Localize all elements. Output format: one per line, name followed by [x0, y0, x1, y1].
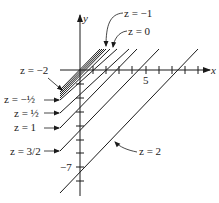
- label-z-neg1: z = −1: [124, 7, 152, 19]
- line-z-1-5: [60, 49, 159, 151]
- line-z-neg1: [60, 49, 104, 94]
- curve-labels: z = −1 z = 0 z = −2 z = −½ z = ½ z = 1 z…: [4, 7, 161, 157]
- label-z-1: z = 1: [14, 121, 36, 133]
- x-axis-label: x: [210, 64, 216, 76]
- y-tick-label-minus7: −7: [60, 161, 72, 173]
- level-lines: [60, 49, 198, 193]
- arrow-z-2: [115, 142, 137, 152]
- line-z-neg0-5: [60, 49, 117, 100]
- label-z-half: z = ½: [14, 107, 39, 119]
- x-tick-label-5: 5: [143, 74, 149, 86]
- label-z-neg2: z = −2: [20, 64, 48, 76]
- line-z-neg0-75: [60, 49, 106, 96]
- label-z-neg-half: z = −½: [4, 93, 35, 105]
- label-z-3-halves: z = 3/2: [10, 145, 41, 157]
- arrow-z-neg2: [48, 78, 62, 90]
- label-z-0: z = 0: [128, 25, 151, 37]
- arrow-z-0: [113, 31, 127, 47]
- level-curves-diagram: x y 5 −7 z = −1 z = 0 z = −2 z = −½ z = …: [0, 0, 219, 203]
- label-z-2: z = 2: [139, 145, 161, 157]
- y-axis-label: y: [82, 12, 88, 24]
